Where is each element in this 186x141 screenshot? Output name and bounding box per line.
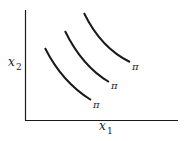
curve-1-label: π [92,99,100,110]
x-axis-label: x [99,119,106,133]
curve-3-label: π [131,61,139,72]
curve-2-label: π [110,80,118,91]
y-axis-subscript: 2 [16,62,22,72]
curve-1 [45,48,91,100]
x-axis-subscript: 1 [107,126,113,136]
curve-2 [65,31,109,82]
curve-3 [84,13,130,62]
diagram-canvas: π π π x 2 x 1 [0,0,186,141]
y-axis-label: x [8,55,15,69]
